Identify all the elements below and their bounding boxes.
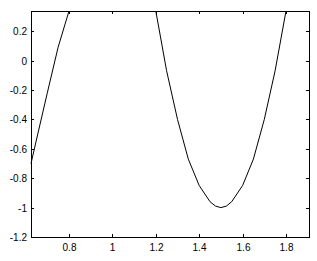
x-tick-label: 0.8 bbox=[63, 242, 77, 253]
y-tick-label: -0.8 bbox=[10, 173, 28, 184]
plot-frame bbox=[32, 12, 310, 238]
y-tick-label: -0.2 bbox=[10, 85, 28, 96]
y-tick-label: 0.2 bbox=[13, 26, 27, 37]
line-chart: 0.811.21.41.61.8 0.20-0.2-0.4-0.6-0.8-1-… bbox=[0, 0, 317, 261]
series-line-left-branch bbox=[31, 11, 69, 164]
y-tick-label: -1 bbox=[18, 203, 27, 214]
x-tick-label: 1.4 bbox=[193, 242, 207, 253]
series-line-parabola bbox=[156, 11, 286, 208]
x-tick-label: 1.6 bbox=[237, 242, 251, 253]
x-tick-label: 1 bbox=[110, 242, 116, 253]
y-tick-label: -0.6 bbox=[10, 144, 28, 155]
x-axis-ticks: 0.811.21.41.61.8 bbox=[63, 11, 294, 253]
data-series bbox=[31, 11, 286, 208]
x-tick-label: 1.8 bbox=[280, 242, 294, 253]
x-tick-label: 1.2 bbox=[150, 242, 164, 253]
y-tick-label: -1.2 bbox=[10, 232, 28, 243]
y-tick-label: 0 bbox=[21, 56, 27, 67]
y-tick-label: -0.4 bbox=[10, 114, 28, 125]
y-axis-ticks: 0.20-0.2-0.4-0.6-0.8-1-1.2 bbox=[10, 26, 309, 243]
